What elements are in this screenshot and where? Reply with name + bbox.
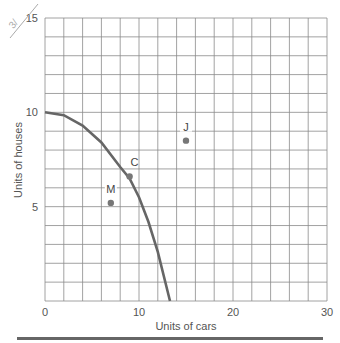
point-label: J bbox=[183, 121, 189, 133]
bottom-rule bbox=[17, 337, 323, 340]
point-c: C bbox=[124, 154, 139, 179]
x-axis-title: Units of cars bbox=[155, 320, 217, 332]
point-j: J bbox=[180, 119, 192, 144]
y-tick-label: 5 bbox=[32, 201, 38, 213]
x-tick-label: 20 bbox=[227, 306, 239, 318]
x-axis-ticks: 0102030 bbox=[42, 306, 333, 318]
chart-grid bbox=[45, 18, 327, 301]
y-tick-label: 10 bbox=[26, 106, 38, 118]
y-tick-label: 15 bbox=[26, 12, 38, 24]
point-marker bbox=[126, 173, 132, 179]
point-label: M bbox=[106, 183, 115, 195]
x-tick-label: 10 bbox=[133, 306, 145, 318]
x-tick-label: 0 bbox=[42, 306, 48, 318]
ppf-chart: JCM 0102030 51015 Units of cars Units of… bbox=[0, 0, 340, 343]
x-tick-label: 30 bbox=[321, 306, 333, 318]
point-m: M bbox=[105, 181, 117, 206]
y-axis-ticks: 51015 bbox=[26, 12, 38, 213]
y-axis-title: Units of houses bbox=[12, 122, 24, 198]
point-label: C bbox=[131, 156, 139, 168]
point-marker bbox=[183, 137, 189, 143]
point-marker bbox=[108, 200, 114, 206]
